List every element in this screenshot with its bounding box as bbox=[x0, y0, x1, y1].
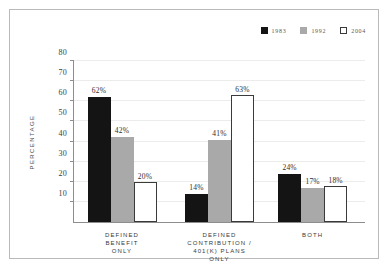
bar[interactable]: 62% bbox=[88, 97, 111, 222]
legend-item-2004[interactable]: 2004 bbox=[340, 27, 366, 34]
y-tick-mark bbox=[70, 181, 74, 182]
bar-value-label: 42% bbox=[115, 126, 129, 135]
bar-slot: 42% bbox=[111, 61, 134, 222]
bar[interactable]: 63% bbox=[231, 95, 254, 222]
y-tick-mark bbox=[70, 161, 74, 162]
bar[interactable]: 17% bbox=[301, 188, 324, 222]
bar-slot: 17% bbox=[301, 61, 324, 222]
bar-slot: 63% bbox=[231, 61, 254, 222]
y-tick-label: 30 bbox=[58, 148, 67, 157]
bar-value-label: 62% bbox=[92, 86, 106, 95]
y-tick-mark bbox=[70, 120, 74, 121]
x-axis-category-label: DEFINEDCONTRIBUTION /401(K) PLANSONLY bbox=[187, 231, 251, 263]
gray-square-icon bbox=[300, 27, 307, 34]
bar[interactable]: 42% bbox=[111, 137, 134, 222]
bar-group: 24%17%18%BOTH bbox=[278, 61, 347, 222]
bar-slot: 14% bbox=[185, 61, 208, 222]
y-tick-mark bbox=[70, 100, 74, 101]
bar-group: 14%41%63%DEFINEDCONTRIBUTION /401(K) PLA… bbox=[185, 61, 254, 222]
bar-value-label: 63% bbox=[235, 85, 249, 94]
y-tick-label: 20 bbox=[58, 168, 67, 177]
bar-value-label: 24% bbox=[282, 163, 296, 172]
black-square-icon bbox=[261, 27, 268, 34]
y-tick-label: 10 bbox=[58, 188, 67, 197]
legend-item-1983[interactable]: 1983 bbox=[261, 27, 287, 34]
y-tick-label: 50 bbox=[58, 108, 67, 117]
bar-slot: 62% bbox=[88, 61, 111, 222]
bar-value-label: 17% bbox=[305, 177, 319, 186]
bar-value-label: 20% bbox=[138, 172, 152, 181]
bar-value-label: 18% bbox=[328, 176, 342, 185]
bar[interactable]: 41% bbox=[208, 140, 231, 223]
x-axis-category-label: BOTH bbox=[302, 231, 323, 239]
chart-legend: 1983 1992 2004 bbox=[261, 27, 366, 34]
y-tick-label: 70 bbox=[58, 68, 67, 77]
chart-frame: 1983 1992 2004 PERCENTAGE 10203040506070… bbox=[9, 9, 379, 259]
y-tick-label: 40 bbox=[58, 128, 67, 137]
bar[interactable]: 20% bbox=[134, 182, 157, 222]
y-tick-mark bbox=[70, 60, 74, 61]
bar-value-label: 14% bbox=[189, 183, 203, 192]
y-tick-label: 60 bbox=[58, 88, 67, 97]
bar[interactable]: 18% bbox=[324, 186, 347, 222]
y-axis-title: PERCENTAGE bbox=[29, 115, 35, 170]
legend-label-1983: 1983 bbox=[272, 28, 287, 34]
bar-value-label: 41% bbox=[212, 129, 226, 138]
bar-slot: 24% bbox=[278, 61, 301, 222]
y-tick-mark bbox=[70, 201, 74, 202]
legend-label-1992: 1992 bbox=[311, 28, 326, 34]
y-tick-mark bbox=[70, 141, 74, 142]
bar[interactable]: 14% bbox=[185, 194, 208, 222]
bar-slot: 20% bbox=[134, 61, 157, 222]
bar[interactable]: 24% bbox=[278, 174, 301, 222]
plot-area: 1020304050607080 62%42%20%DEFINEDBENEFIT… bbox=[73, 61, 365, 223]
y-tick-mark bbox=[70, 80, 74, 81]
bar-slot: 18% bbox=[324, 61, 347, 222]
legend-label-2004: 2004 bbox=[351, 28, 366, 34]
y-tick-label: 80 bbox=[58, 48, 67, 57]
x-axis-category-label: DEFINEDBENEFITONLY bbox=[105, 231, 139, 255]
legend-item-1992[interactable]: 1992 bbox=[300, 27, 326, 34]
bar-slot: 41% bbox=[208, 61, 231, 222]
white-square-icon bbox=[340, 27, 347, 34]
bar-group: 62%42%20%DEFINEDBENEFITONLY bbox=[88, 61, 157, 222]
